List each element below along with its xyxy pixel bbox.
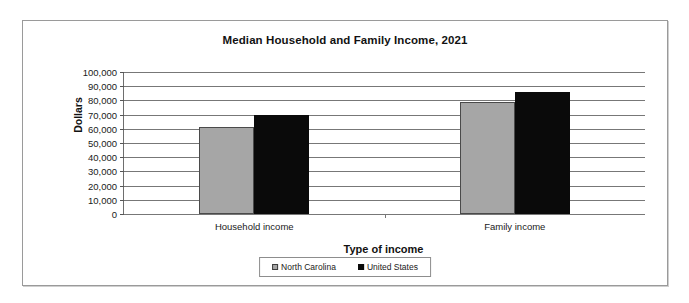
chart-frame: Median Household and Family Income, 2021…: [22, 20, 668, 286]
legend-label: United States: [367, 262, 418, 272]
x-axis-category-label: Household income: [215, 221, 294, 232]
bars-group: [124, 72, 645, 214]
legend-item: North Carolina: [272, 262, 336, 272]
chart-legend: North CarolinaUnited States: [259, 257, 431, 277]
legend-swatch-icon: [272, 264, 278, 270]
y-axis-tick-label: 10,000: [88, 194, 117, 205]
y-axis-tick-label: 40,000: [88, 152, 117, 163]
category-separator-tick: [385, 214, 386, 218]
y-axis-title: Dollars: [72, 80, 84, 150]
legend-swatch-icon: [358, 264, 364, 270]
x-axis-category-label: Family income: [484, 221, 545, 232]
y-axis-tick-label: 80,000: [88, 95, 117, 106]
y-axis-tick-label: 90,000: [88, 81, 117, 92]
y-axis-tick-label: 60,000: [88, 123, 117, 134]
y-axis-tick-label: 70,000: [88, 109, 117, 120]
bar: [460, 102, 515, 214]
legend-item: United States: [358, 262, 418, 272]
bar: [515, 92, 570, 214]
bar: [199, 127, 254, 214]
y-axis-tick-label: 20,000: [88, 180, 117, 191]
y-axis-tick-label: 100,000: [83, 67, 117, 78]
y-axis-tick: [120, 214, 124, 215]
x-axis-title: Type of income: [123, 243, 644, 255]
y-axis-tick-label: 50,000: [88, 138, 117, 149]
chart-title: Median Household and Family Income, 2021: [23, 34, 667, 46]
plot-area: 100,00090,00080,00070,00060,00050,00040,…: [123, 72, 645, 215]
y-axis-tick-label: 0: [112, 209, 117, 220]
legend-label: North Carolina: [281, 262, 336, 272]
bar: [254, 115, 309, 214]
y-axis-tick-label: 30,000: [88, 166, 117, 177]
